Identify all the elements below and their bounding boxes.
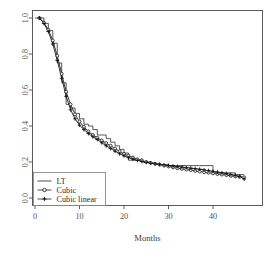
y-axis-tick-labels: 0.00.20.40.60.81.0	[21, 13, 30, 203]
data-point-marker	[74, 113, 77, 116]
x-axis-ticks	[35, 206, 213, 210]
y-tick-label: 0.8	[21, 49, 30, 59]
x-tick-label: 0	[33, 212, 37, 221]
y-axis-ticks	[29, 18, 33, 198]
legend-label: Cubic	[57, 186, 77, 195]
x-tick-label: 10	[75, 212, 83, 221]
legend-label: Cubic linear	[57, 195, 98, 204]
y-tick-label: 1.0	[21, 13, 30, 23]
data-point-marker	[69, 108, 73, 112]
data-point-marker	[69, 103, 72, 106]
x-tick-label: 40	[209, 212, 217, 221]
y-tick-label: 0.4	[21, 121, 30, 131]
y-tick-label: 0.0	[21, 193, 30, 203]
data-series-layer	[35, 16, 246, 181]
legend-circle-marker-icon	[43, 188, 46, 191]
x-tick-label: 20	[120, 212, 128, 221]
data-point-marker	[60, 72, 63, 75]
data-point-marker	[78, 120, 81, 123]
series-markers-cubic	[38, 17, 246, 179]
data-point-marker	[56, 54, 59, 57]
x-axis-title: Months	[134, 233, 161, 243]
series-line-cubic-linear	[39, 18, 244, 179]
data-point-marker	[65, 90, 68, 93]
y-tick-label: 0.2	[21, 157, 30, 167]
x-axis-tick-labels: 010203040	[33, 212, 217, 221]
chart-figure: 010203040 0.00.20.40.60.81.0 LTCubicCubi…	[0, 0, 275, 259]
y-tick-label: 0.6	[21, 85, 30, 95]
data-point-marker	[153, 162, 157, 166]
data-point-marker	[51, 39, 54, 42]
legend-label: LT	[57, 177, 66, 186]
chart-legend: LTCubicCubic linear	[34, 173, 106, 206]
x-tick-label: 30	[164, 212, 172, 221]
survival-curve-plot: 010203040 0.00.20.40.60.81.0 LTCubicCubi…	[0, 0, 275, 259]
series-line-cubic	[39, 18, 244, 177]
